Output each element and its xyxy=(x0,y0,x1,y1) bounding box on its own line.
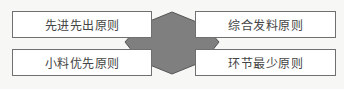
box-top-right: 综合发料原则 xyxy=(195,11,336,38)
box-bottom-left: 小料优先原则 xyxy=(12,49,152,76)
box-label: 环节最少原则 xyxy=(228,54,303,71)
box-label: 综合发料原则 xyxy=(228,16,303,33)
box-label: 先进先出原则 xyxy=(45,16,120,33)
box-label: 小料优先原则 xyxy=(45,54,120,71)
box-bottom-right: 环节最少原则 xyxy=(195,49,336,76)
box-top-left: 先进先出原则 xyxy=(12,11,152,38)
